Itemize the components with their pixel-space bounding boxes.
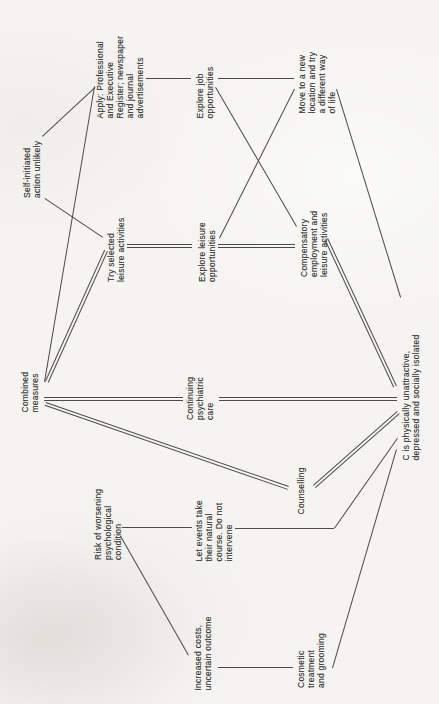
edge-combined-counselling — [45, 402, 289, 490]
node-let-events-natural-course: Let events take their natural course. Do… — [193, 475, 233, 562]
edge-counselling-c — [313, 411, 400, 488]
node-continuing-psychiatric-care: Continuing psychiatric care — [185, 363, 216, 420]
edge-continuing-c — [219, 397, 397, 401]
edge-try-selected-explore-leisure — [127, 244, 192, 248]
edge-cosmetic-c — [332, 449, 397, 668]
edge-apply-explore-job — [146, 78, 191, 79]
node-self-initiated-action-unlikely: Self-initiated action unlikely — [22, 126, 42, 198]
edge-increased-cosmetic — [218, 667, 293, 668]
edge-risk-let-events — [122, 527, 192, 528]
edge-risk-increased — [120, 536, 189, 655]
node-apply-professional-register: Apply: Professional and Executive Regist… — [95, 15, 145, 118]
node-cosmetic-treatment-grooming: Cosmetic treatment and grooming — [296, 627, 327, 688]
diagram-canvas: Apply: Professional and Executive Regist… — [0, 0, 439, 704]
node-increased-costs-uncertain-outcome: Increased costs, uncertain outcome — [192, 603, 214, 690]
edge-move-c — [336, 89, 401, 298]
node-try-selected-leisure-activities: Try selected leisure activities — [106, 203, 127, 282]
edge-explore-leisure-compensatory — [218, 244, 295, 248]
edge-let-events-c — [235, 528, 334, 529]
edge-let-events-c — [334, 438, 398, 529]
node-explore-leisure-opportunities: Explore leisure opportunities — [197, 205, 216, 282]
node-risk-worsening-condition: Risk of worsening psychological conditio… — [93, 473, 124, 560]
node-combined-measures: Combined measures — [19, 373, 39, 412]
node-counselling: Counselling — [296, 456, 307, 514]
node-problem-statement-c: C is physically unattractive, depressed … — [400, 298, 421, 460]
edge-explore-job-move — [218, 78, 294, 79]
node-explore-job-opportunities: Explore job opportunities — [195, 52, 214, 118]
edge-combined-continuing — [44, 397, 183, 401]
edge-compensatory-c — [324, 238, 397, 387]
edge-combined-apply — [44, 86, 95, 382]
node-move-to-new-location: Move to a new location and try a differe… — [296, 42, 336, 113]
node-compensatory-employment-leisure: Compensatory employment and leisure acti… — [299, 200, 330, 277]
